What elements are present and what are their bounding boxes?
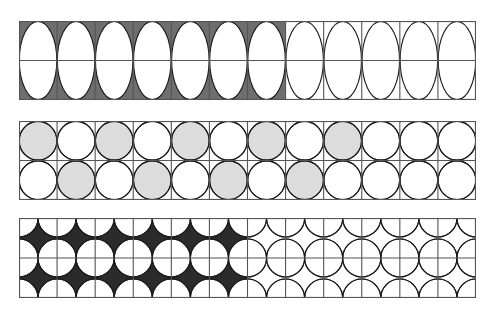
strip-1-vertical-ellipses [19, 21, 476, 100]
figure-root [0, 0, 494, 316]
strip-3-four-petal-rosette [19, 218, 476, 298]
strip-2-horizontal-ellipses [19, 121, 476, 200]
